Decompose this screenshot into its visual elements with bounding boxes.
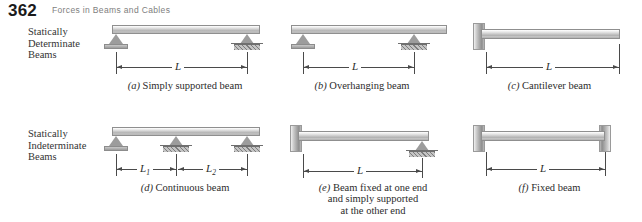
figure-tag: (b): [314, 80, 326, 91]
dimension-arrow-right: [613, 65, 618, 69]
dimension-extension-right: [422, 158, 423, 178]
row-label-line-3: Beams: [28, 49, 80, 61]
figure-caption-line-2: and simply supported: [287, 193, 459, 204]
figure-caption: (f) Fixed beam: [462, 182, 637, 194]
figure-tag: (a): [128, 80, 140, 91]
dimension-label-L: L: [543, 60, 555, 72]
dimension-extension-left: [486, 52, 487, 74]
roller-support-ground-line-middle: [160, 145, 192, 146]
figure-caption-text: Cantilever beam: [522, 80, 591, 91]
roller-support-ground-line-right: [231, 145, 263, 146]
dimension-extension-right: [247, 154, 248, 176]
figure-c-cantilever-beam: L (c) Cantilever beam: [462, 22, 637, 100]
figure-tag: (c): [508, 80, 520, 91]
beam-body: [481, 131, 605, 141]
dimension-label-subscript: 1: [146, 168, 150, 177]
dimension-arrow-left: [304, 169, 309, 173]
textbook-figure-page: 362 Forces in Beams and Cables Staticall…: [0, 0, 642, 222]
row-label-line-2: Indeterminate: [28, 140, 86, 152]
figure-e-fixed-and-simply-supported-beam: L (e) Beam fixed at one end and simply s…: [287, 124, 459, 216]
dimension-arrow-L2-left: [179, 167, 184, 171]
beam-body: [291, 25, 447, 34]
dimension-label-text: L: [175, 60, 181, 72]
dimension-label-L: L: [349, 60, 361, 72]
beam-body: [112, 127, 260, 136]
dimension-label-text: L: [357, 164, 363, 176]
dimension-arrow-left: [487, 65, 492, 69]
figure-tag: (e): [319, 182, 331, 193]
figure-f-fixed-beam: L (f) Fixed beam: [462, 124, 637, 216]
dimension-extension-middle: [176, 154, 177, 176]
dimension-label-L: L: [537, 162, 549, 174]
dimension-arrow-left: [487, 167, 492, 171]
figure-caption: (c) Cantilever beam: [462, 80, 637, 92]
dimension-arrow-left: [117, 65, 122, 69]
dimension-arrow-L1-right: [170, 167, 175, 171]
figure-caption-text: Simply supported beam: [143, 80, 243, 91]
dimension-label-L: L: [354, 164, 366, 176]
figure-caption-text: Continuous beam: [156, 182, 230, 193]
dimension-label-subscript: 2: [212, 168, 216, 177]
dimension-arrow-right: [599, 167, 604, 171]
dimension-arrow-right: [241, 65, 246, 69]
beam-body: [112, 25, 260, 34]
pin-support-base: [291, 44, 315, 49]
dimension-extension-left: [116, 154, 117, 176]
figure-caption-line-1: (e) Beam fixed at one end: [287, 182, 459, 193]
figure-caption-text: Overhanging beam: [329, 80, 409, 91]
dimension-extension-right: [619, 44, 620, 74]
dimension-label-text: L: [540, 162, 546, 174]
roller-support-ground-line: [406, 150, 438, 151]
row-label-line-3: Beams: [28, 151, 86, 163]
figure-caption: (a) Simply supported beam: [100, 80, 270, 92]
figure-caption-text: Fixed beam: [531, 182, 580, 193]
row-label-statically-determinate: Statically Determinate Beams: [28, 26, 80, 61]
figure-caption: (d) Continuous beam: [100, 182, 270, 194]
row-label-line-1: Statically: [28, 128, 86, 140]
figure-caption-text-line-1: Beam fixed at one end: [333, 182, 427, 193]
roller-support-hatched-base: [234, 44, 260, 50]
dimension-extension-right: [414, 52, 415, 74]
figure-caption-line-3: at the other end: [287, 205, 459, 216]
beam-body: [298, 131, 429, 141]
dimension-arrow-right: [416, 169, 421, 173]
figure-caption: (b) Overhanging beam: [277, 80, 447, 92]
pin-support-triangle: [109, 34, 123, 44]
pin-support-triangle: [109, 136, 123, 146]
dimension-label-L2: L2: [203, 162, 219, 177]
roller-support-hatched-base: [401, 44, 427, 50]
dimension-label-text: L: [352, 60, 358, 72]
dimension-arrow-L1-left: [117, 167, 122, 171]
page-number: 362: [8, 1, 37, 21]
dimension-extension-left: [486, 152, 487, 176]
roller-support-ground-line: [231, 43, 263, 44]
figure-a-simply-supported-beam: L (a) Simply supported beam: [100, 22, 270, 100]
figure-caption: (e) Beam fixed at one end and simply sup…: [287, 182, 459, 216]
roller-support-hatched-base-middle: [163, 146, 189, 152]
figure-tag: (f): [519, 182, 529, 193]
running-head-title: Forces in Beams and Cables: [52, 5, 170, 15]
beam-body: [481, 29, 620, 39]
dimension-label-text: L: [546, 60, 552, 72]
figure-d-continuous-beam: L1 L2 (d) Continuous beam: [100, 124, 270, 216]
dimension-arrow-L2-right: [241, 167, 246, 171]
pin-support-base: [104, 146, 128, 151]
row-label-line-1: Statically: [28, 26, 80, 38]
dimension-extension-right: [605, 152, 606, 176]
row-label-statically-indeterminate: Statically Indeterminate Beams: [28, 128, 86, 163]
roller-support-hatched-base-right: [234, 146, 260, 152]
dimension-extension-left: [303, 52, 304, 74]
figure-tag: (d): [141, 182, 153, 193]
dimension-arrow-right: [408, 65, 413, 69]
dimension-label-L1: L1: [137, 162, 153, 177]
dimension-arrow-left: [304, 65, 309, 69]
pin-support-base: [104, 44, 128, 49]
dimension-extension-left: [116, 52, 117, 74]
pin-support-triangle: [296, 34, 310, 44]
figure-b-overhanging-beam: L (b) Overhanging beam: [287, 22, 457, 100]
dimension-label-L: L: [172, 60, 184, 72]
dimension-extension-right: [247, 52, 248, 74]
roller-support-hatched-base: [409, 151, 435, 157]
dimension-extension-left: [303, 154, 304, 178]
roller-support-ground-line: [398, 43, 430, 44]
